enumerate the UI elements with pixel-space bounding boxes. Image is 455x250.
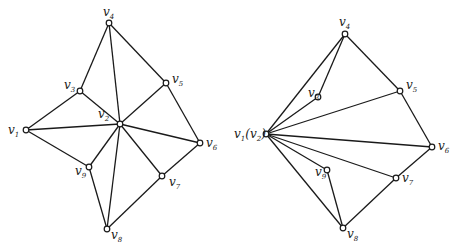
edge-v4-v5 xyxy=(109,23,166,83)
edge-v3-v4 xyxy=(318,34,345,97)
vertex-v2 xyxy=(117,121,123,127)
edge-v12-v7 xyxy=(266,134,396,178)
vertex-v7 xyxy=(159,173,165,179)
edge-v6-v7 xyxy=(162,143,200,176)
edge-v1-v3 xyxy=(26,91,80,130)
edge-v12-v4 xyxy=(266,34,345,134)
vertex-label-v5: v5 xyxy=(172,72,184,88)
vertex-label-v1: v1 xyxy=(8,123,19,139)
edge-v12-v3 xyxy=(266,97,318,134)
vertex-v4 xyxy=(106,20,112,26)
edge-v7-v8 xyxy=(107,176,162,229)
vertex-v8 xyxy=(340,225,346,231)
contracted-graph: v1(v2)v3v4v5v6v7v8v9 xyxy=(234,15,450,243)
original-graph: v1v2v3v4v5v6v7v8v9 xyxy=(8,5,218,244)
edge-v3-v4 xyxy=(80,23,109,91)
vertex-v1 xyxy=(23,127,29,133)
vertex-v5 xyxy=(397,88,403,94)
vertex-v5 xyxy=(163,80,169,86)
edge-v7-v8 xyxy=(343,178,396,228)
vertex-label-v5: v5 xyxy=(406,78,418,94)
edge-v1-v9 xyxy=(26,130,89,167)
vertex-label-v6: v6 xyxy=(206,136,218,152)
vertex-label-v8: v8 xyxy=(347,227,359,243)
graph-contraction-diagram: v1v2v3v4v5v6v7v8v9 v1(v2)v3v4v5v6v7v8v9 xyxy=(0,0,455,250)
vertex-label-v12: v1(v2) xyxy=(234,127,266,143)
vertex-v6 xyxy=(429,144,435,150)
edge-v8-v9 xyxy=(89,167,107,229)
edge-v7-v2 xyxy=(120,124,162,176)
vertex-label-v7: v7 xyxy=(169,175,181,191)
edge-v1-v2 xyxy=(26,124,120,130)
vertex-label-v4: v4 xyxy=(339,15,350,31)
vertex-v7 xyxy=(393,175,399,181)
vertex-label-v4: v4 xyxy=(103,5,114,21)
edge-v12-v6 xyxy=(266,134,432,147)
edge-v12-v5 xyxy=(266,91,400,134)
edge-v6-v2 xyxy=(120,124,200,143)
vertex-v6 xyxy=(197,140,203,146)
vertex-label-v3: v3 xyxy=(308,86,320,102)
vertex-v3 xyxy=(77,88,83,94)
vertex-label-v2: v2 xyxy=(98,107,110,123)
edge-v12-v8 xyxy=(266,134,343,228)
vertex-v4 xyxy=(342,31,348,37)
edge-v4-v2 xyxy=(109,23,120,124)
vertex-label-v6: v6 xyxy=(438,139,450,155)
edge-v5-v2 xyxy=(120,83,166,124)
vertex-label-v7: v7 xyxy=(402,171,414,187)
vertex-label-v3: v3 xyxy=(64,78,76,94)
edge-v5-v6 xyxy=(166,83,200,143)
vertex-label-v8: v8 xyxy=(111,228,123,244)
edge-v5-v6 xyxy=(400,91,432,147)
edge-v9-v8 xyxy=(327,170,343,228)
vertex-label-v9: v9 xyxy=(75,164,87,180)
edge-v4-v5 xyxy=(345,34,400,91)
vertex-v8 xyxy=(104,226,110,232)
vertex-v9 xyxy=(86,164,92,170)
